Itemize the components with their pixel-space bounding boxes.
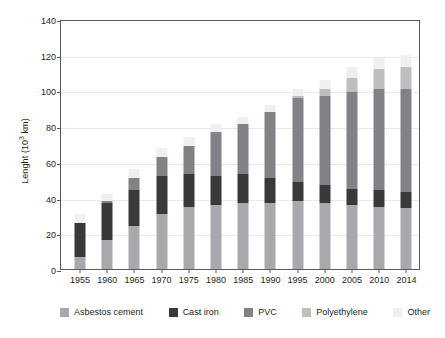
x-tick-mark — [297, 269, 298, 273]
bar-segment — [347, 189, 358, 205]
bar-segment — [319, 96, 330, 185]
bar-segment — [211, 176, 222, 205]
bar-segment — [374, 207, 385, 270]
y-tick-label: 80 — [46, 123, 61, 133]
x-tick-mark — [107, 269, 108, 273]
legend-item[interactable]: Polyethylene — [302, 307, 368, 317]
y-tick-label: 40 — [46, 195, 61, 205]
bar-1985[interactable] — [238, 117, 249, 269]
bar-segment — [374, 69, 385, 89]
bar-1955[interactable] — [75, 214, 86, 269]
bar-segment — [265, 178, 276, 203]
bar-segment — [75, 223, 86, 257]
bar-segment — [265, 112, 276, 178]
x-tick-mark — [134, 269, 135, 273]
legend-swatch-icon — [393, 308, 402, 317]
bar-segment — [374, 58, 385, 69]
bar-segment — [319, 185, 330, 203]
x-tick-label: 1955 — [70, 275, 90, 285]
bar-segment — [183, 146, 194, 175]
x-tick-label: 1960 — [97, 275, 117, 285]
bar-segment — [347, 92, 358, 188]
bar-segment — [292, 201, 303, 269]
bar-segment — [238, 203, 249, 269]
bar-segment — [75, 257, 86, 270]
bar-segment — [347, 67, 358, 78]
x-tick-mark — [216, 269, 217, 273]
legend-swatch-icon — [302, 308, 311, 317]
bar-2005[interactable] — [347, 67, 358, 269]
bar-segment — [183, 207, 194, 270]
legend-label: Asbestos cement — [74, 307, 143, 317]
bar-segment — [238, 174, 249, 203]
legend-item[interactable]: Cast iron — [169, 307, 219, 317]
bar-segment — [401, 67, 412, 88]
legend-label: Polyethylene — [316, 307, 368, 317]
bar-segment — [211, 205, 222, 269]
x-tick-label: 1985 — [233, 275, 253, 285]
bar-segment — [102, 240, 113, 269]
x-tick-label: 1990 — [260, 275, 280, 285]
y-tick-label: 140 — [41, 16, 61, 26]
bar-segment — [102, 194, 113, 201]
legend-swatch-icon — [60, 308, 69, 317]
bar-1970[interactable] — [156, 148, 167, 269]
bar-1980[interactable] — [211, 124, 222, 269]
bar-segment — [156, 214, 167, 269]
bar-segment — [183, 174, 194, 206]
legend-item[interactable]: Asbestos cement — [60, 307, 143, 317]
bar-1975[interactable] — [183, 137, 194, 269]
x-tick-mark — [161, 269, 162, 273]
bar-segment — [156, 176, 167, 214]
bar-segment — [183, 137, 194, 146]
bar-1990[interactable] — [265, 105, 276, 269]
legend-item[interactable]: Other — [393, 307, 430, 317]
x-tick-mark — [80, 269, 81, 273]
x-tick-label: 1965 — [124, 275, 144, 285]
bar-segment — [292, 182, 303, 202]
bar-segment — [374, 89, 385, 191]
x-tick-label: 1995 — [288, 275, 308, 285]
x-tick-label: 1970 — [152, 275, 172, 285]
bar-segment — [265, 203, 276, 269]
chart-figure: Lenght (103 km) 020406080100120140 19551… — [0, 0, 445, 338]
y-axis-title-suffix: km) — [20, 118, 30, 136]
y-axis-title-prefix: Lenght (10 — [20, 140, 30, 184]
y-tick-label: 20 — [46, 230, 61, 240]
bar-segment — [401, 55, 412, 68]
x-tick-label: 1975 — [179, 275, 199, 285]
bar-segment — [129, 226, 140, 269]
legend-label: Cast iron — [183, 307, 219, 317]
bar-segment — [102, 203, 113, 241]
bar-segment — [238, 124, 249, 174]
bar-1960[interactable] — [102, 194, 113, 269]
x-tick-mark — [379, 269, 380, 273]
bar-2010[interactable] — [374, 58, 385, 269]
legend: Asbestos cementCast ironPVCPolyethyleneO… — [60, 307, 430, 317]
bar-segment — [265, 105, 276, 112]
legend-label: Other — [407, 307, 430, 317]
bar-segment — [401, 89, 412, 193]
x-tick-mark — [243, 269, 244, 273]
bar-2014[interactable] — [401, 55, 412, 269]
bar-group — [61, 21, 419, 269]
x-tick-mark — [352, 269, 353, 273]
legend-item[interactable]: PVC — [244, 307, 277, 317]
legend-label: PVC — [258, 307, 277, 317]
y-axis-title: Lenght (103 km) — [18, 71, 30, 231]
y-tick-label: 120 — [41, 52, 61, 62]
bar-segment — [156, 157, 167, 177]
bar-segment — [238, 117, 249, 124]
bar-1965[interactable] — [129, 169, 140, 269]
bar-segment — [319, 80, 330, 89]
bar-2000[interactable] — [319, 80, 330, 269]
x-tick-mark — [324, 269, 325, 273]
y-tick-label: 100 — [41, 87, 61, 97]
bar-segment — [211, 132, 222, 177]
x-tick-label: 2000 — [315, 275, 335, 285]
bar-segment — [129, 169, 140, 178]
x-tick-mark — [188, 269, 189, 273]
bar-1995[interactable] — [292, 89, 303, 269]
bar-segment — [75, 214, 86, 223]
x-tick-label: 1980 — [206, 275, 226, 285]
